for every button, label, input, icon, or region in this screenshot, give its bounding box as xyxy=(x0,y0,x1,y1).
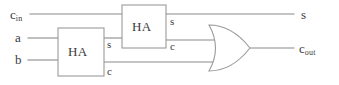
input-cin-base: c xyxy=(10,7,16,22)
half-adder-1-label: HA xyxy=(68,45,88,58)
input-label-a: a xyxy=(15,31,21,44)
input-a-base: a xyxy=(15,30,21,45)
half-adder-2-label: HA xyxy=(132,20,152,33)
input-b-base: b xyxy=(15,52,22,67)
pin-label-ha1-carry: c xyxy=(107,66,112,77)
pin-label-ha1-sum: s xyxy=(107,39,111,50)
input-label-cin: cin xyxy=(10,8,22,21)
pin-label-ha2-carry: c xyxy=(170,41,175,52)
input-cin-subscript: in xyxy=(16,14,23,23)
pin-label-ha2-sum: s xyxy=(170,16,174,27)
full-adder-diagram: cin a b HA HA s c s c s cout xyxy=(0,0,339,85)
output-label-cout: cout xyxy=(299,42,316,55)
output-label-sum: s xyxy=(301,8,306,21)
output-sum-base: s xyxy=(301,7,306,22)
output-cout-base: c xyxy=(299,41,305,56)
output-cout-subscript: out xyxy=(305,48,316,57)
input-label-b: b xyxy=(15,53,22,66)
or-gate-shape[interactable] xyxy=(209,25,250,71)
